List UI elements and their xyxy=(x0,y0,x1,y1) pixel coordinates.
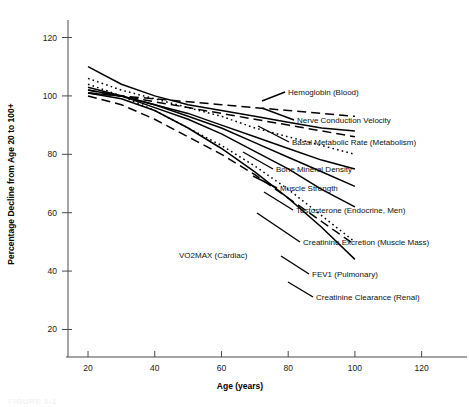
series-label: VO2MAX (Cardiac) xyxy=(179,251,248,260)
figure-caption: FIGURE 1-1 xyxy=(8,397,57,406)
series-label: Bone Mineral Density xyxy=(276,165,352,174)
x-tick-label: 20 xyxy=(83,363,93,373)
x-axis-title: Age (years) xyxy=(217,381,263,391)
x-tick-label: 120 xyxy=(415,363,429,373)
x-tick-label: 100 xyxy=(348,363,362,373)
series-label: Basal Metabolic Rate (Metabolism) xyxy=(292,138,416,147)
y-axis-title: Percentage Decline from Age 20 to 100+ xyxy=(6,103,16,265)
y-tick-label: 40 xyxy=(48,266,58,276)
y-tick-label: 120 xyxy=(43,33,57,43)
series-label: Nerve Conduction Velocity xyxy=(297,116,391,125)
series-label: Creatinine Clearance (Renal) xyxy=(316,293,420,302)
chart-figure: 20406080100120 20406080100120 Hemoglobin… xyxy=(0,0,469,407)
series-label: Hemoglobin (Blood) xyxy=(288,88,359,97)
series-label: Muscle Strength xyxy=(280,184,338,193)
series-label: Creatinine Excretion (Muscle Mass) xyxy=(303,238,430,247)
y-tick-label: 60 xyxy=(48,208,58,218)
chart-background xyxy=(0,0,469,407)
y-tick-label: 100 xyxy=(43,91,57,101)
x-tick-label: 80 xyxy=(283,363,293,373)
series-label: Testosterone (Endocrine, Men) xyxy=(296,206,406,215)
series-label: FEV1 (Pulmonary) xyxy=(312,270,378,279)
x-tick-label: 60 xyxy=(217,363,227,373)
y-tick-label: 80 xyxy=(48,149,58,159)
y-tick-label: 20 xyxy=(48,324,58,334)
x-tick-label: 40 xyxy=(150,363,160,373)
decline-vs-age-line-chart: 20406080100120 20406080100120 Hemoglobin… xyxy=(0,0,469,407)
